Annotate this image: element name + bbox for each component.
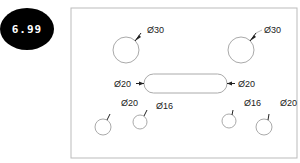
- slot-right-label: Ø20: [238, 79, 255, 89]
- hole-bottom-right-small: Ø16: [222, 98, 261, 128]
- hole-top-left: Ø30: [113, 25, 164, 63]
- hole-bottom-right-large: Ø20: [256, 98, 297, 135]
- hole-bottom-left-small-label: Ø16: [156, 101, 173, 111]
- hole-bottom-right-small-label: Ø16: [244, 98, 261, 108]
- hole-bottom-left-small: Ø16: [133, 101, 173, 129]
- hole-bottom-left-large: Ø20: [95, 98, 138, 135]
- hole-bottom-left-large-label: Ø20: [121, 98, 138, 108]
- hole-bottom-right-large-label: Ø20: [280, 98, 297, 108]
- technical-drawing: Ø30 Ø30 Ø20 Ø20 Ø20 Ø16 Ø16: [0, 0, 300, 163]
- slot-left-label: Ø20: [114, 79, 131, 89]
- hole-top-right: Ø30: [228, 25, 281, 63]
- hole-top-left-label: Ø30: [147, 25, 164, 35]
- slot: Ø20 Ø20: [114, 74, 255, 93]
- hole-top-right-label: Ø30: [264, 25, 281, 35]
